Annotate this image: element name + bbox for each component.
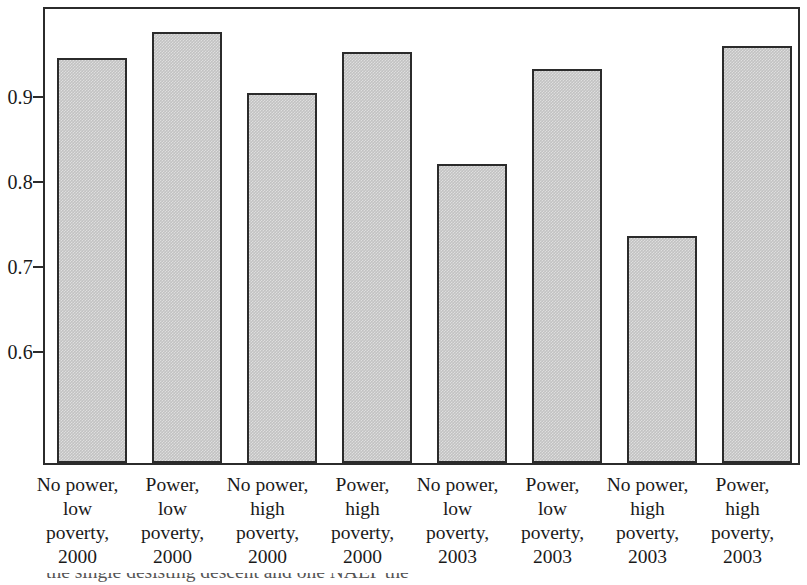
y-axis-tick-label-text: 0.9 [1, 87, 33, 107]
x-axis-label-line: 2003 [680, 545, 805, 569]
y-axis-tick-label-2: 0.7 [0, 257, 33, 277]
bar-0[interactable] [57, 58, 127, 463]
bar-2[interactable] [247, 93, 317, 463]
y-axis-tick-label-text: 0.8 [1, 172, 33, 192]
figure-caption-clipped: the single desisting descent and one NAE… [0, 573, 807, 585]
bar-chart-figure: 0.9 0.8 0.7 0.6 No power, low poverty, 2… [0, 0, 807, 585]
y-axis-tick-label-text: 0.6 [1, 342, 33, 362]
y-axis-tick-label-1: 0.8 [0, 172, 33, 192]
y-axis-tick-label-0: 0.9 [0, 87, 33, 107]
bar-7[interactable] [722, 46, 792, 463]
bar-3[interactable] [342, 52, 412, 463]
x-axis-label-line: high [680, 497, 805, 521]
y-axis-tick-label-3: 0.6 [0, 342, 33, 362]
bar-6[interactable] [627, 236, 697, 463]
y-axis-tick-label-text: 0.7 [1, 257, 33, 277]
bar-5[interactable] [532, 69, 602, 463]
x-axis-label-line: Power, [680, 473, 805, 497]
x-axis-label-7: Power, high poverty, 2003 [680, 473, 805, 569]
bar-4[interactable] [437, 164, 507, 463]
figure-caption-text: the single desisting descent and one NAE… [46, 573, 409, 584]
plot-area [43, 7, 800, 465]
bar-1[interactable] [152, 32, 222, 463]
x-axis-label-line: poverty, [680, 521, 805, 545]
